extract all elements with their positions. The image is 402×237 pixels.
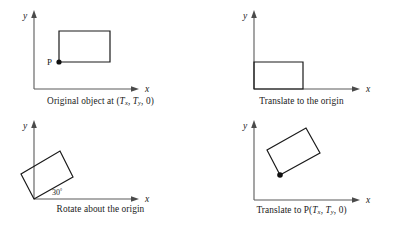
y-axis-arrowhead [251, 10, 257, 18]
point-p-marker [277, 172, 283, 178]
rotation-angle-unit: ° [60, 188, 62, 194]
x-axis-arrowhead [131, 86, 139, 92]
x-axis-label: x [365, 84, 371, 94]
y-axis-label: y [22, 11, 28, 21]
panel-translate-to-p-caption: Translate to P(Tx, Ty, 0) [201, 205, 402, 215]
rotation-angle-label: 30° [52, 188, 62, 197]
transformation-figure: y x P Original object at (Tx, Ty, 0) y x… [0, 0, 402, 237]
y-axis-arrowhead [251, 120, 257, 128]
object-rectangle-rotated [267, 128, 320, 175]
point-p-marker [56, 59, 61, 64]
object-rectangle [59, 31, 110, 62]
y-axis-arrowhead [31, 120, 37, 128]
object-rectangle [254, 62, 303, 89]
y-axis-label: y [242, 121, 248, 131]
x-axis-arrowhead [131, 196, 139, 202]
x-axis-label: x [144, 194, 150, 204]
y-axis-label: y [22, 121, 28, 131]
panel-original-caption: Original object at (Tx, Ty, 0) [0, 96, 201, 106]
panel-rotate-origin-caption: Rotate about the origin [0, 204, 201, 214]
x-axis-arrowhead [352, 86, 360, 92]
y-axis-label: y [242, 11, 248, 21]
caption-text-suffix: , 0) [334, 205, 347, 215]
x-axis-label: x [144, 84, 150, 94]
panel-translate-origin: y x Translate to the origin [201, 0, 402, 118]
caption-text-prefix: Original object at ( [47, 96, 119, 106]
point-p-label: P [47, 57, 52, 67]
panel-rotate-origin-diagram: y x 30° [0, 119, 201, 237]
panel-translate-to-p-diagram: y x [201, 119, 402, 237]
rotation-angle-value: 30 [52, 188, 60, 197]
panel-rotate-origin: y x 30° Rotate about the origin [0, 119, 201, 237]
x-axis-label: x [365, 195, 371, 205]
panel-original-object: y x P Original object at (Tx, Ty, 0) [0, 0, 201, 118]
panel-translate-to-p: y x Translate to P(Tx, Ty, 0) [201, 119, 402, 237]
y-axis-arrowhead [31, 10, 37, 18]
caption-text-prefix: Translate to P( [256, 205, 312, 215]
object-rectangle-rotated [21, 151, 73, 199]
caption-text-suffix: , 0) [141, 96, 154, 106]
panel-translate-origin-caption: Translate to the origin [201, 96, 402, 106]
x-axis-arrowhead [352, 197, 360, 203]
